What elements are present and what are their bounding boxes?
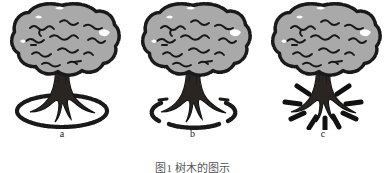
tree-diagram-a (0, 0, 124, 130)
tree-panel-row: a (0, 0, 385, 145)
tree-canopy (273, 4, 379, 74)
tree-canopy (143, 4, 249, 74)
tree-diagram-b (131, 0, 255, 130)
panel-label-c: c (261, 128, 385, 140)
tree-diagram-c (261, 0, 385, 130)
panel-label-a: a (0, 128, 124, 140)
figure-caption: 图1 树木的图示 (0, 162, 385, 173)
tree-panel-a: a (0, 0, 124, 145)
tree-canopy (12, 4, 118, 74)
panel-label-b: b (131, 128, 255, 140)
tree-panel-c: c (261, 0, 385, 145)
tree-illustration-figure: a (0, 0, 385, 173)
tree-panel-b: b (131, 0, 255, 145)
